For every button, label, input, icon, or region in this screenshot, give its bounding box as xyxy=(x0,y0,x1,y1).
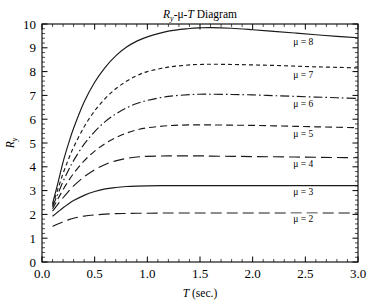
y-tick-label: 3 xyxy=(30,183,37,198)
ry-mu-t-diagram: Ry-μ-T Diagram 0.00.51.01.52.02.53.0 012… xyxy=(0,0,380,307)
x-tick-label: 2.5 xyxy=(297,266,313,281)
series-label-mu-3: μ = 3 xyxy=(293,187,313,197)
y-tick-label: 0 xyxy=(30,255,37,270)
series-label-mu-5: μ = 5 xyxy=(293,129,313,139)
chart-background xyxy=(0,0,380,307)
y-tick-label: 8 xyxy=(30,64,37,79)
chart-page: Ry-μ-T Diagram 0.00.51.01.52.02.53.0 012… xyxy=(0,0,380,307)
y-tick-label: 7 xyxy=(30,88,37,103)
x-tick-label: 0.5 xyxy=(87,266,103,281)
x-tick-label: 1.0 xyxy=(139,266,155,281)
series-label-mu-6: μ = 6 xyxy=(293,99,313,109)
y-tick-label: 9 xyxy=(30,40,37,55)
x-tick-label: 2.0 xyxy=(245,266,261,281)
y-tick-label: 5 xyxy=(30,136,37,151)
series-label-mu-2: μ = 2 xyxy=(293,214,313,224)
series-label-mu-4: μ = 4 xyxy=(293,159,313,169)
series-label-mu-8: μ = 8 xyxy=(293,37,313,47)
y-tick-label: 1 xyxy=(30,231,37,246)
series-label-mu-7: μ = 7 xyxy=(293,70,313,80)
x-axis-title: T (sec.) xyxy=(183,287,218,300)
x-tick-label: 3.0 xyxy=(350,266,366,281)
x-tick-label: 0.0 xyxy=(34,266,50,281)
y-tick-label: 4 xyxy=(30,159,37,174)
x-tick-label: 1.5 xyxy=(192,266,208,281)
y-tick-label: 6 xyxy=(30,112,37,127)
y-tick-label: 2 xyxy=(30,207,37,222)
y-tick-label: 10 xyxy=(23,17,36,32)
